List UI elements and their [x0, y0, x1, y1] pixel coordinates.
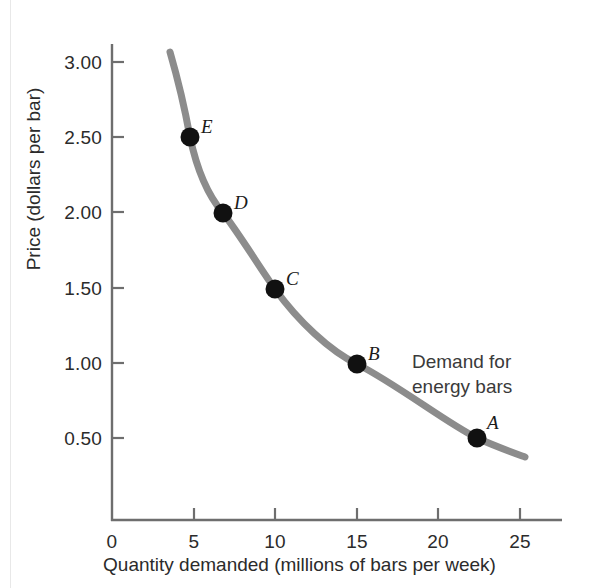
- x-tick-label-20: 20: [413, 531, 463, 553]
- x-tick-label-10: 10: [250, 531, 300, 553]
- data-point-e[interactable]: [181, 128, 200, 147]
- curve-annotation: Demand for energy bars: [412, 349, 512, 399]
- y-axis-title: Price (dollars per bar): [23, 69, 45, 289]
- data-point-c[interactable]: [266, 280, 285, 299]
- point-label-c: C: [286, 268, 299, 290]
- data-point-markers: [181, 128, 487, 448]
- x-tick-label-5: 5: [169, 531, 219, 553]
- curve-annotation-line-1: Demand for: [412, 349, 512, 374]
- data-point-b[interactable]: [348, 355, 367, 374]
- curve-annotation-line-2: energy bars: [412, 374, 512, 399]
- y-tick-label-0-50: 0.50: [32, 428, 102, 450]
- point-label-d: D: [234, 192, 248, 214]
- demand-curve-figure: 3.00 2.50 2.00 1.50 1.00 0.50 0 5 10 15 …: [0, 0, 599, 588]
- x-axis-title: Quantity demanded (millions of bars per …: [0, 554, 599, 576]
- x-tick-label-0: 0: [87, 531, 137, 553]
- x-tick-label-15: 15: [332, 531, 382, 553]
- point-label-a: A: [487, 412, 499, 434]
- y-axis-ticks: [112, 62, 124, 438]
- point-label-e: E: [201, 116, 213, 138]
- x-tick-label-25: 25: [495, 531, 545, 553]
- x-axis-ticks: [194, 508, 520, 520]
- y-tick-label-1-00: 1.00: [32, 353, 102, 375]
- data-point-a[interactable]: [468, 429, 487, 448]
- point-label-b: B: [368, 343, 380, 365]
- data-point-d[interactable]: [214, 204, 233, 223]
